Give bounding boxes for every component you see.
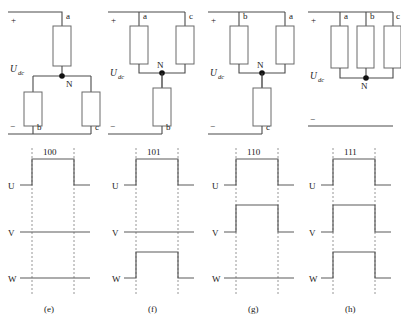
circuit-e: + a N U dc b c −: [8, 11, 100, 134]
waveform-f-panel-label: (f): [148, 304, 157, 314]
circuit-h-label-c: c: [396, 11, 400, 21]
circuit-h-neutral-node: [363, 75, 369, 81]
waveform-g-label-v: V: [212, 228, 219, 238]
circuit-h-resistor-b: [357, 26, 374, 68]
circuit-e-neutral-label: N: [66, 79, 73, 89]
circuit-e-resistor-c: [82, 92, 100, 126]
waveform-h-signal-v: [321, 205, 391, 232]
circuit-f-label-a: a: [143, 11, 147, 21]
circuit-h-label-b: b: [370, 11, 375, 21]
waveform-e-label-v: V: [8, 228, 15, 238]
circuit-h-minus-sign: −: [310, 114, 315, 124]
waveform-e-label-w: W: [8, 274, 17, 284]
circuit-g-resistor-c: [253, 88, 271, 126]
circuit-h-resistor-a: [331, 26, 348, 68]
circuit-g-neutral-label: N: [257, 60, 264, 70]
circuit-e-label-b: b: [37, 122, 42, 132]
waveform-e-panel-label: (e): [44, 304, 54, 314]
circuit-h: + a b c N U dc −: [308, 11, 401, 126]
circuit-f-neutral-label: N: [157, 60, 164, 70]
circuit-e-label-a: a: [66, 11, 70, 21]
circuit-g: + b a N U dc c −: [208, 11, 294, 134]
circuit-g-supply-label: U: [210, 68, 218, 78]
circuit-e-resistor-a: [53, 26, 71, 66]
circuit-g-label-b: b: [243, 11, 248, 21]
waveform-f-state-code: 101: [147, 147, 161, 157]
circuit-e-minus-sign: −: [10, 121, 15, 131]
waveform-f-signal-u: [124, 159, 194, 185]
circuit-e-positive-rail: [8, 12, 62, 26]
circuit-e-supply-subscript: dc: [18, 69, 24, 76]
circuit-h-neutral-label: N: [361, 81, 368, 91]
waveform-g: 110 U V W (g): [212, 147, 294, 314]
circuit-e-label-c: c: [95, 122, 99, 132]
waveform-g-state-code: 110: [247, 147, 261, 157]
waveform-h: 111 U V W (h): [309, 147, 391, 314]
circuit-e-plus-sign: +: [11, 15, 16, 25]
waveform-h-label-u: U: [309, 181, 316, 191]
waveform-e-label-u: U: [8, 181, 15, 191]
circuit-f-supply-label: U: [110, 68, 118, 78]
circuit-h-resistor-c: [384, 26, 401, 68]
circuit-g-supply-subscript: dc: [218, 73, 224, 80]
waveform-g-panel-label: (g): [248, 304, 259, 314]
circuit-e-resistor-b: [24, 92, 42, 126]
circuit-f-supply-subscript: dc: [118, 73, 124, 80]
circuit-f-resistor-a: [130, 26, 148, 64]
circuit-g-plus-sign: +: [211, 15, 216, 25]
waveform-f-label-v: V: [112, 228, 119, 238]
waveform-f-label-u: U: [112, 181, 119, 191]
waveform-h-label-v: V: [309, 228, 316, 238]
circuit-g-minus-sign: −: [210, 121, 215, 131]
waveform-f-label-w: W: [112, 274, 121, 284]
waveform-g-label-w: W: [212, 274, 221, 284]
waveform-h-panel-label: (h): [345, 304, 356, 314]
circuit-f-resistor-c: [176, 26, 194, 64]
circuit-f-minus-sign: −: [110, 121, 115, 131]
circuit-g-resistor-b: [230, 26, 248, 64]
circuit-f-resistor-b: [153, 88, 171, 126]
circuit-e-supply-label: U: [10, 64, 18, 74]
waveform-e-state-code: 100: [43, 147, 57, 157]
waveform-h-state-code: 111: [344, 147, 357, 157]
waveform-g-signal-u: [224, 159, 294, 185]
waveform-f: 101 U V W (f): [112, 147, 194, 314]
waveform-f-signal-w: [124, 252, 194, 278]
circuit-g-resistor-a: [276, 26, 294, 64]
circuit-f-label-b: b: [166, 122, 171, 132]
waveform-h-signal-w: [321, 252, 391, 278]
figure-svg: + a N U dc b c − + a c N: [0, 0, 401, 320]
circuit-f-plus-sign: +: [111, 15, 116, 25]
waveform-g-label-u: U: [212, 181, 219, 191]
circuit-h-label-a: a: [344, 11, 348, 21]
circuit-h-plus-sign: +: [311, 15, 316, 25]
circuit-f-label-c: c: [189, 11, 193, 21]
circuit-g-label-a: a: [289, 11, 293, 21]
figure-root: + a N U dc b c − + a c N: [0, 0, 401, 320]
waveform-e: 100 U V W (e): [8, 147, 90, 314]
circuit-h-supply-label: U: [310, 71, 318, 81]
waveform-e-signal-u: [20, 159, 90, 185]
circuit-g-label-c: c: [266, 122, 270, 132]
circuit-h-supply-subscript: dc: [318, 76, 324, 83]
waveform-h-signal-u: [321, 159, 391, 185]
circuit-e-neutral-node: [59, 73, 65, 79]
waveform-g-signal-v: [224, 205, 294, 232]
circuit-f: + a c N U dc b −: [108, 11, 194, 134]
waveform-h-label-w: W: [309, 274, 318, 284]
